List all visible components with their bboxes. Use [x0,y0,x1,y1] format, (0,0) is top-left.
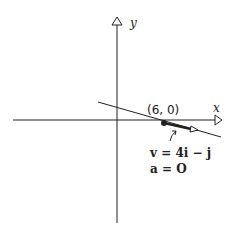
velocity-vector [164,123,191,129]
diagram-canvas: (6, 0) x y v = 4i − j a = O [0,0,236,227]
acceleration-label: a = O [150,162,187,176]
point-dot [161,120,167,126]
pointer-arrow [170,131,176,141]
x-axis-arrow-icon [215,115,222,125]
y-axis-arrow-icon [112,17,122,25]
point-label: (6, 0) [147,103,179,117]
y-axis-label: y [129,16,137,30]
velocity-arrow-icon [190,126,198,132]
x-axis-label: x [213,101,220,115]
velocity-label: v = 4i − j [149,146,211,160]
